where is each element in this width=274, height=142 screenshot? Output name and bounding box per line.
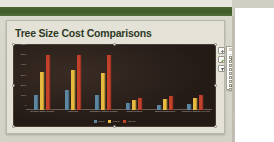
bar-group [150, 49, 181, 110]
task-pane[interactable] [234, 8, 274, 142]
bar[interactable] [71, 70, 76, 110]
category-label: Stand Management [150, 110, 181, 117]
legend-label: Year 1 [98, 120, 105, 123]
resize-handle-w[interactable] [12, 84, 15, 87]
legend-label: Year 10 [127, 120, 135, 123]
resize-handle-n[interactable] [113, 43, 116, 46]
slide-canvas[interactable]: Tree Size Cost Comparisons 6000500040003… [6, 20, 225, 134]
y-axis-tick-label: 6000 [14, 42, 26, 47]
resize-handle-se[interactable] [214, 125, 217, 128]
bar[interactable] [132, 100, 137, 110]
chart-object[interactable]: 6000500040003000200010000 Cleanup Single… [13, 44, 216, 127]
bar-group [58, 49, 89, 110]
resize-handle-s[interactable] [113, 125, 116, 128]
y-axis-tick-label: 2000 [14, 82, 26, 87]
chart-filters-button[interactable] [218, 65, 225, 72]
bar[interactable] [199, 95, 204, 110]
legend-item[interactable]: Year 10 [123, 120, 135, 123]
category-label: Afford Only [58, 110, 89, 117]
bar[interactable] [65, 90, 70, 110]
bars-area [27, 49, 211, 110]
legend-item[interactable]: Year 5 [108, 120, 119, 123]
task-pane-body [235, 36, 274, 142]
chart-styles-button[interactable] [218, 56, 225, 63]
ribbon-green-band [0, 7, 232, 16]
task-pane-header [235, 8, 274, 37]
category-label: Resistance Natural Regime [88, 110, 119, 117]
bar-groups [27, 49, 211, 110]
y-axis: 6000500040003000200010000 [14, 49, 26, 110]
bar[interactable] [40, 72, 45, 110]
bar[interactable] [95, 95, 100, 110]
bar[interactable] [107, 55, 112, 110]
bar[interactable] [163, 99, 168, 110]
category-labels: Cleanup Single RegimeAfford OnlyResistan… [27, 110, 211, 117]
resize-handle-e[interactable] [214, 84, 217, 87]
y-axis-tick-label: 3000 [14, 72, 26, 77]
page-title[interactable]: Tree Size Cost Comparisons [15, 26, 205, 40]
bar[interactable] [46, 55, 51, 110]
bar[interactable] [138, 98, 143, 110]
resize-handle-sw[interactable] [12, 125, 15, 128]
chart-tool-buttons [218, 47, 225, 74]
legend-label: Year 5 [112, 120, 119, 123]
category-label: Restored Short [119, 110, 150, 117]
resize-handle-ne[interactable] [214, 43, 217, 46]
legend-swatch [123, 120, 126, 123]
chart-plot-container: 6000500040003000200010000 Cleanup Single… [14, 45, 215, 126]
bar-group [119, 49, 150, 110]
chart-elements-button[interactable] [218, 47, 225, 54]
category-label: Protective Strategy Mix Cut [180, 110, 211, 117]
bar[interactable] [77, 55, 82, 110]
bar-group [180, 49, 211, 110]
y-axis-tick-label: 4000 [14, 62, 26, 67]
chart-legend[interactable]: Year 1Year 5Year 10 [14, 118, 215, 125]
bar-group [27, 49, 58, 110]
bar[interactable] [126, 103, 131, 110]
ribbon-top-strip [0, 0, 232, 7]
bar[interactable] [101, 73, 106, 110]
bar[interactable] [193, 98, 198, 110]
bar[interactable] [169, 96, 174, 110]
legend-swatch [108, 120, 111, 123]
y-axis-tick-label: 5000 [14, 52, 26, 57]
bar[interactable] [34, 95, 39, 110]
slide-workspace: Tree Size Cost Comparisons 6000500040003… [0, 16, 232, 142]
y-axis-tick-label: 1000 [14, 92, 26, 97]
bar-group [88, 49, 119, 110]
category-label: Cleanup Single Regime [27, 110, 58, 117]
y-axis-tick-label: 0 [14, 103, 26, 108]
legend-swatch [94, 120, 97, 123]
resize-handle-nw[interactable] [12, 43, 15, 46]
powerpoint-window: Tree Size Cost Comparisons 6000500040003… [0, 0, 274, 142]
legend-item[interactable]: Year 1 [94, 120, 105, 123]
